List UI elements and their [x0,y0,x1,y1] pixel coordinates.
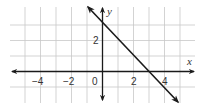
x-tick-label: −4 [32,77,43,87]
x-tick-label: −2 [63,77,74,87]
x-tick-label: 4 [162,77,168,87]
x-tick-label: 2 [131,77,137,87]
y-tick-label: 2 [93,36,99,46]
y-axis-label: y [107,6,112,16]
x-axis-label: x [187,56,192,66]
x-tick-label: 0 [92,77,98,87]
coordinate-graph [0,0,201,107]
